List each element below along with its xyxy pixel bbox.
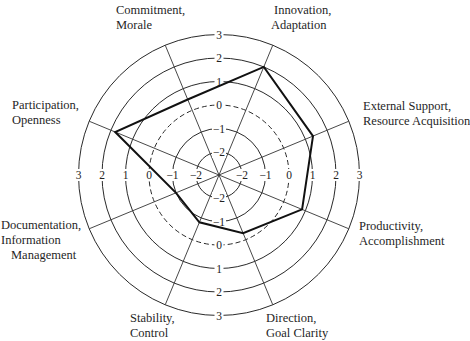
- tick-label: −1: [213, 123, 225, 135]
- spoke-innovation: [219, 45, 273, 175]
- label-participation: Participation, Openness: [12, 98, 79, 128]
- tick-label: 1: [310, 169, 316, 181]
- tick-label: 0: [216, 99, 222, 111]
- spoke-commitment: [165, 45, 219, 175]
- label-direction: Direction, Goal Clarity: [266, 311, 328, 341]
- spoke-productivity: [219, 175, 349, 229]
- tick-label: −2: [190, 169, 202, 181]
- tick-label: 0: [216, 239, 222, 251]
- label-stability: Stability, Control: [130, 311, 175, 341]
- spoke-documentation: [89, 175, 219, 229]
- tick-label: −1: [259, 169, 271, 181]
- tick-label: 2: [333, 169, 339, 181]
- tick-label: −1: [166, 169, 178, 181]
- tick-label: 1: [123, 169, 129, 181]
- spoke-stability: [165, 175, 219, 305]
- tick-label: 3: [76, 169, 82, 181]
- tick-label: −2: [236, 169, 248, 181]
- label-productivity: Productivity, Accomplishment: [359, 219, 444, 249]
- tick-label: 3: [216, 310, 222, 322]
- tick-label: −2: [213, 146, 225, 158]
- tick-label: 3: [357, 169, 363, 181]
- spoke-external: [219, 121, 349, 175]
- tick-label: −2: [213, 192, 225, 204]
- label-external-support: External Support, Resource Acquisition: [363, 99, 470, 129]
- tick-label: 2: [99, 169, 105, 181]
- label-innovation: Innovation, Adaptation: [271, 3, 331, 33]
- label-documentation: Documentation, Information Management: [1, 218, 81, 263]
- spoke-direction: [219, 175, 273, 305]
- label-commitment: Commitment, Morale: [116, 3, 185, 33]
- tick-label: 2: [216, 286, 222, 298]
- tick-label: 0: [146, 169, 152, 181]
- tick-label: 1: [216, 263, 222, 275]
- tick-label: 3: [216, 29, 222, 41]
- spoke-participation: [89, 121, 219, 175]
- tick-label: 2: [216, 52, 222, 64]
- tick-label: 0: [286, 169, 292, 181]
